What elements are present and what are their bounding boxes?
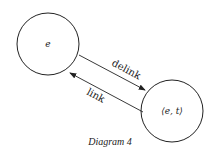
node-e: e — [17, 13, 79, 75]
svg-text:⟨e, t⟩: ⟨e, t⟩ — [161, 106, 183, 116]
svg-text:e: e — [45, 39, 50, 49]
link-arrow — [70, 73, 143, 112]
node-e-t: ⟨e, t⟩ — [141, 80, 203, 142]
diagram-caption: Diagram 4 — [0, 136, 220, 147]
link-label: link — [85, 86, 108, 105]
delink-label: delink — [110, 57, 144, 82]
